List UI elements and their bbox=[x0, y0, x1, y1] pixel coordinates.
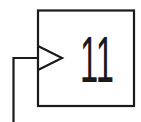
block-label: 11 bbox=[80, 24, 114, 96]
clock-triangle-icon bbox=[38, 46, 62, 70]
diagram-canvas: 11 bbox=[0, 0, 141, 122]
clock-input-wire bbox=[14, 58, 39, 122]
